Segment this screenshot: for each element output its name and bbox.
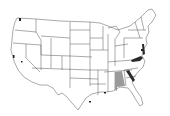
us-map (0, 0, 170, 116)
marker-northeast (141, 49, 143, 51)
marker-houston (89, 101, 91, 103)
marker-gulf-coast (104, 92, 106, 94)
marker-seattle (19, 18, 21, 21)
marker-sf-bay (13, 55, 15, 58)
us-map-svg (0, 0, 170, 116)
marker-nevada (21, 61, 23, 63)
